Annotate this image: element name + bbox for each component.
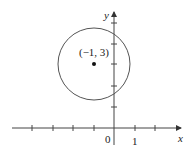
center-point bbox=[92, 62, 96, 66]
center-label: (−1, 3) bbox=[79, 46, 109, 59]
coordinate-plane: (−1, 3) y x 0 1 bbox=[0, 0, 192, 158]
x-axis-label: x bbox=[177, 132, 183, 144]
origin-label: 0 bbox=[105, 133, 111, 145]
y-axis-label: y bbox=[103, 9, 109, 21]
x-tick-label-1: 1 bbox=[132, 135, 138, 147]
